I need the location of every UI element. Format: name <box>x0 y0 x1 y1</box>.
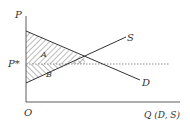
supply-label: S <box>127 32 134 43</box>
region-a-consumer-surplus <box>26 31 85 64</box>
x-axis-label: Q (D, S) <box>144 110 181 120</box>
region-b-label: B <box>45 70 52 79</box>
surplus-diagram: P P* O Q (D, S) S D A B <box>0 0 190 126</box>
region-a-label: A <box>40 50 47 59</box>
origin-label: O <box>24 107 32 118</box>
demand-label: D <box>141 77 150 88</box>
y-axis-label: P <box>14 9 22 20</box>
equilibrium-price-label: P* <box>7 58 20 69</box>
